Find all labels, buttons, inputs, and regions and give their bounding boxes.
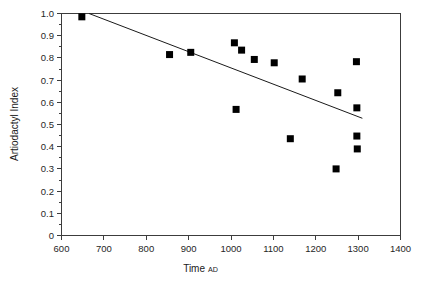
trend-line [89, 14, 362, 119]
chart-canvas: 00.10.20.30.40.50.60.70.80.91.0 60070080… [0, 0, 427, 285]
data-point-3 [231, 39, 238, 46]
data-point-9 [299, 75, 306, 82]
data-point-12 [353, 58, 360, 65]
data-point-4 [233, 106, 240, 113]
x-tick-label-3: 900 [181, 243, 197, 254]
x-tick-label-1: 700 [96, 243, 112, 254]
data-points-group [78, 13, 360, 172]
x-axis-title-label: Time [183, 263, 205, 274]
data-point-10 [333, 165, 340, 172]
y-tick-label-0: 0 [49, 230, 54, 241]
y-tick-label-3: 0.3 [41, 163, 54, 174]
y-tick-label-5: 0.5 [41, 119, 54, 130]
y-tick-label-2: 0.2 [41, 186, 54, 197]
y-tick-label-4: 0.4 [41, 141, 54, 152]
x-tick-label-8: 1400 [390, 243, 411, 254]
trend-line-segment [89, 14, 362, 119]
x-axis-title: Time AD [183, 263, 218, 274]
y-axis-tick-labels: 00.10.20.30.40.50.60.70.80.91.0 [41, 8, 54, 241]
y-tick-label-9: 0.9 [41, 30, 54, 41]
data-point-8 [287, 135, 294, 142]
x-axis-title-suffix: AD [208, 265, 218, 274]
artiodactyl-index-scatter-chart: 00.10.20.30.40.50.60.70.80.91.0 60070080… [0, 0, 427, 285]
y-axis-title: Artiodactyl Index [9, 87, 20, 161]
y-tick-label-10: 1.0 [41, 8, 54, 19]
data-point-15 [354, 145, 361, 152]
plot-frame [62, 14, 401, 236]
x-axis-major-ticks [62, 236, 401, 241]
x-tick-label-7: 1300 [348, 243, 369, 254]
data-point-11 [334, 89, 341, 96]
data-point-1 [166, 51, 173, 58]
data-point-0 [78, 13, 85, 20]
y-tick-label-6: 0.6 [41, 97, 54, 108]
x-tick-label-2: 800 [138, 243, 154, 254]
y-tick-label-7: 0.7 [41, 75, 54, 86]
data-point-7 [271, 59, 278, 66]
x-tick-label-0: 600 [54, 243, 70, 254]
data-point-2 [187, 49, 194, 56]
y-axis-title-label: Artiodactyl Index [9, 87, 20, 161]
x-tick-label-5: 1100 [263, 243, 283, 254]
data-point-5 [238, 47, 245, 54]
x-tick-label-4: 1000 [220, 243, 241, 254]
data-point-13 [353, 104, 360, 111]
y-tick-label-1: 0.1 [41, 208, 54, 219]
data-point-14 [353, 133, 360, 140]
data-point-6 [251, 56, 258, 63]
x-axis-tick-labels: 60070080090010001100120013001400 [54, 243, 412, 254]
y-tick-label-8: 0.8 [41, 52, 54, 63]
x-tick-label-6: 1200 [305, 243, 326, 254]
